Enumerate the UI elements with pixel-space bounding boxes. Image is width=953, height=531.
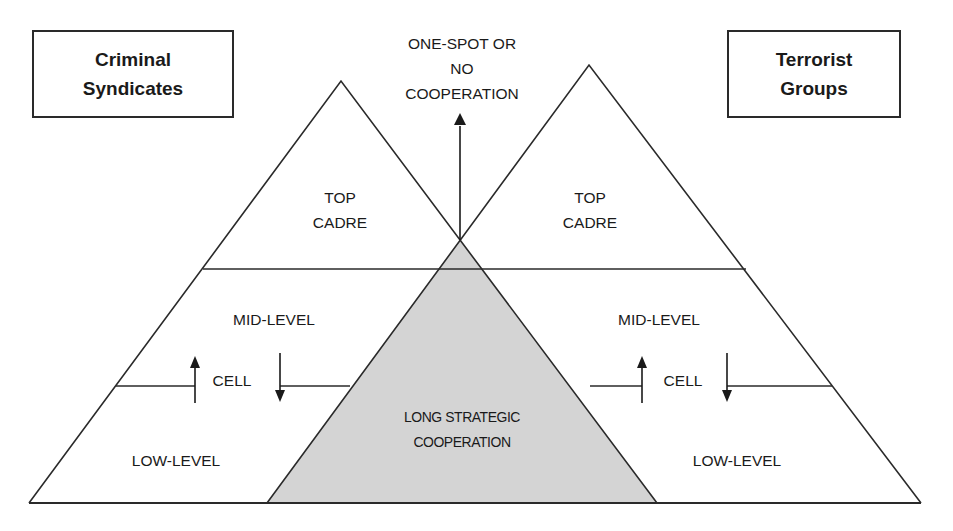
one-spot-cooperation-label: ONE-SPOT OR NO COOPERATION: [405, 31, 518, 106]
terrorist-groups-box: Terrorist Groups: [727, 30, 901, 118]
left-down-arrow-icon: [275, 353, 285, 402]
overlap-region: [267, 240, 657, 503]
left-low-level-label: LOW-LEVEL: [132, 448, 220, 473]
one-spot-line1: ONE-SPOT OR: [405, 31, 518, 56]
right-top-cadre-label: TOP CADRE: [563, 185, 617, 235]
left-top-cadre-label: TOP CADRE: [313, 185, 367, 235]
terrorist-groups-title-line2: Groups: [776, 74, 853, 103]
right-down-arrow-icon: [722, 353, 732, 402]
criminal-syndicates-title-line2: Syndicates: [83, 74, 183, 103]
right-up-arrow-icon: [637, 356, 647, 403]
long-strategic-cooperation-label: LONG STRATEGIC COOPERATION: [404, 404, 520, 454]
left-top-cadre-line2: CADRE: [313, 210, 367, 235]
one-spot-line2: NO: [405, 56, 518, 81]
cooperation-up-arrow-icon: [454, 113, 466, 240]
long-strategic-line2: COOPERATION: [404, 429, 520, 454]
right-cell-label: CELL: [664, 368, 703, 393]
left-cell-label: CELL: [213, 368, 252, 393]
terrorist-groups-title-line1: Terrorist: [776, 45, 853, 74]
right-low-level-label: LOW-LEVEL: [693, 448, 781, 473]
one-spot-line3: COOPERATION: [405, 81, 518, 106]
right-top-cadre-line2: CADRE: [563, 210, 617, 235]
right-mid-level-label: MID-LEVEL: [618, 307, 700, 332]
right-top-cadre-line1: TOP: [563, 185, 617, 210]
criminal-syndicates-box: Criminal Syndicates: [32, 30, 234, 118]
left-up-arrow-icon: [190, 356, 200, 403]
left-mid-level-label: MID-LEVEL: [233, 307, 315, 332]
criminal-syndicates-title-line1: Criminal: [83, 45, 183, 74]
left-top-cadre-line1: TOP: [313, 185, 367, 210]
long-strategic-line1: LONG STRATEGIC: [404, 404, 520, 429]
